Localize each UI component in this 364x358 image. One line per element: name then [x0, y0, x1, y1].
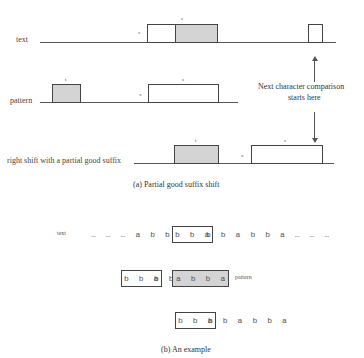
up-arrow-head-icon: [312, 56, 318, 61]
pattern-t-label: t: [65, 77, 66, 82]
down-arrow-head-icon: [312, 138, 318, 143]
caption-a: (a) Partial good suffix shift: [133, 180, 220, 189]
example-pattern-label: pattern: [235, 274, 252, 280]
shift-t-label: t: [195, 138, 196, 143]
shift-s-label: s: [284, 138, 286, 143]
example-shifted-rest: b b a b b a: [208, 316, 289, 325]
annotation-line1: Next character comparison: [258, 82, 344, 91]
pattern-s-box: [148, 84, 219, 103]
annotation-line2: starts here: [288, 93, 321, 102]
pattern-t-box: [52, 84, 81, 103]
text-s-box: [175, 24, 218, 43]
pattern-x-label: x: [139, 92, 142, 97]
text-s-label: s: [181, 16, 183, 21]
text-z-box: [147, 24, 176, 43]
row-label-pattern: pattern: [10, 96, 32, 105]
caption-b: (b) An example: [161, 345, 211, 354]
down-arrow-icon: [314, 112, 315, 140]
pattern-s-label: s: [182, 77, 184, 82]
row-label-shift: right shift with a partial good suffix: [7, 156, 121, 165]
shift-t-box: [174, 145, 219, 164]
example-text-label: text: [57, 230, 66, 236]
text-z-label: z: [138, 30, 140, 35]
row-label-text: text: [16, 35, 28, 44]
up-arrow-icon: [314, 60, 315, 82]
text-next-char-box: [308, 24, 323, 43]
shift-s-box: [251, 145, 323, 164]
example-text-suffix: b b a b b a … … …: [206, 230, 332, 239]
example-pattern-shaded: a b b a: [172, 270, 229, 287]
shift-x-label: x: [241, 153, 244, 158]
